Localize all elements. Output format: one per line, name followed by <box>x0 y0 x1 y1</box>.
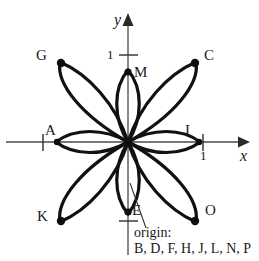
dot-M <box>124 68 131 75</box>
dot-O <box>191 217 199 225</box>
y-tick-value-1: 1 <box>107 48 114 61</box>
point-label-C: C <box>204 48 214 63</box>
dot-I <box>196 139 202 145</box>
dot-C <box>191 59 199 67</box>
point-label-M: M <box>134 65 147 80</box>
point-label-E: E <box>132 203 141 218</box>
y-axis-label: y <box>114 12 121 28</box>
point-label-K: K <box>37 209 48 224</box>
point-label-A: A <box>45 123 56 138</box>
dot-A <box>54 139 60 145</box>
x-tick-value-1: 1 <box>200 149 207 162</box>
dot-E <box>124 208 131 215</box>
x-axis-label: x <box>240 148 247 164</box>
y-axis-arrowhead <box>123 13 134 26</box>
point-label-O: O <box>205 203 216 218</box>
point-label-I: I <box>185 123 190 138</box>
point-label-G: G <box>36 48 47 63</box>
dot-origin <box>125 139 132 146</box>
x-axis-arrowhead <box>238 137 250 148</box>
origin-annotation-title: origin: <box>134 226 171 240</box>
dot-G <box>57 59 65 67</box>
figure-canvas: y x 1 1 G C K O A I M E origin: B, D, F,… <box>0 0 259 261</box>
dot-K <box>57 217 65 225</box>
origin-annotation-points: B, D, F, H, J, L, N, P <box>134 242 251 256</box>
